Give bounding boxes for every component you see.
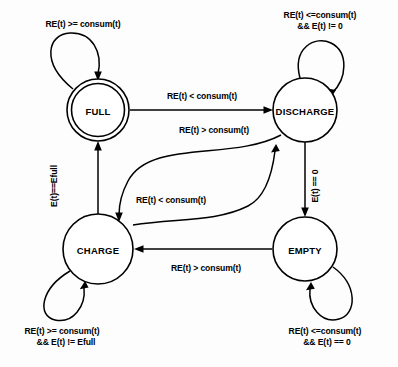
- transition-charge-to-discharge-label: RE(t) < consum(t): [136, 195, 206, 205]
- state-discharge-label: DISCHARGE: [276, 106, 335, 117]
- state-full[interactable]: FULL: [67, 79, 129, 141]
- empty-to-charge-arrowhead: [134, 245, 144, 253]
- state-machine-diagram: RE(t) >= consum(t) RE(t) <=consum(t) && …: [0, 0, 398, 367]
- transition-charge-self-label-2: && E(t) != Efull: [37, 337, 96, 347]
- transition-empty-self-label-1: RE(t) <=consum(t): [289, 326, 362, 336]
- transition-discharge-to-charge[interactable]: RE(t) > consum(t): [115, 125, 281, 222]
- state-discharge[interactable]: DISCHARGE: [273, 78, 337, 142]
- charge-to-discharge-arrowhead: [271, 144, 280, 152]
- full-to-discharge-arrowhead: [264, 106, 274, 114]
- charge-to-full-arrowhead: [94, 141, 102, 151]
- transition-charge-to-full[interactable]: E(t)==Efull: [49, 141, 102, 214]
- transition-charge-to-full-label: E(t)==Efull: [49, 165, 59, 207]
- transition-discharge-to-empty[interactable]: E(t) == 0: [301, 142, 320, 217]
- state-charge[interactable]: CHARGE: [63, 214, 133, 284]
- transition-discharge-to-empty-label: E(t) == 0: [310, 169, 320, 202]
- transition-charge-to-discharge[interactable]: RE(t) < consum(t): [133, 144, 280, 225]
- transition-discharge-self-label-2: && E(t) != 0: [297, 21, 343, 31]
- state-full-label: FULL: [85, 106, 110, 117]
- empty-self-arrowhead: [306, 282, 315, 290]
- transition-empty-to-charge[interactable]: RE(t) > consum(t): [134, 245, 272, 273]
- transition-full-to-discharge[interactable]: RE(t) < consum(t): [130, 91, 273, 114]
- state-diagram-canvas: RE(t) >= consum(t) RE(t) <=consum(t) && …: [0, 0, 398, 367]
- transition-discharge-self-label-1: RE(t) <=consum(t): [284, 10, 357, 20]
- transition-full-self-label: RE(t) >= consum(t): [45, 19, 120, 29]
- discharge-to-empty-arrowhead: [301, 208, 309, 218]
- transition-empty-self-label-2: && E(t) == 0: [303, 337, 351, 347]
- transition-full-self[interactable]: RE(t) >= consum(t): [45, 19, 120, 89]
- charge-to-discharge-path: [133, 151, 275, 225]
- transition-empty-to-charge-label: RE(t) > consum(t): [171, 263, 241, 273]
- transition-charge-self-label-1: RE(t) >= consum(t): [24, 326, 99, 336]
- state-empty-label: EMPTY: [288, 245, 322, 256]
- state-empty[interactable]: EMPTY: [273, 217, 337, 281]
- transition-discharge-to-charge-label: RE(t) > consum(t): [179, 125, 249, 135]
- transition-full-to-discharge-label: RE(t) < consum(t): [167, 91, 237, 101]
- state-charge-label: CHARGE: [77, 245, 119, 256]
